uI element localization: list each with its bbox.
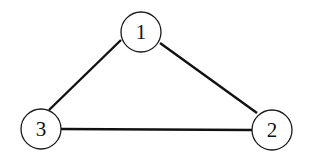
edge-3-2 — [61, 129, 252, 130]
edge-1-2 — [160, 43, 257, 113]
node-3: 3 — [21, 109, 61, 149]
graph-diagram: 1 2 3 — [0, 0, 312, 161]
edge-1-3 — [49, 40, 121, 110]
node-2-label: 2 — [267, 118, 278, 142]
node-1: 1 — [121, 12, 161, 52]
node-2: 2 — [252, 110, 292, 150]
node-1-label: 1 — [136, 20, 147, 44]
node-3-label: 3 — [36, 117, 47, 141]
